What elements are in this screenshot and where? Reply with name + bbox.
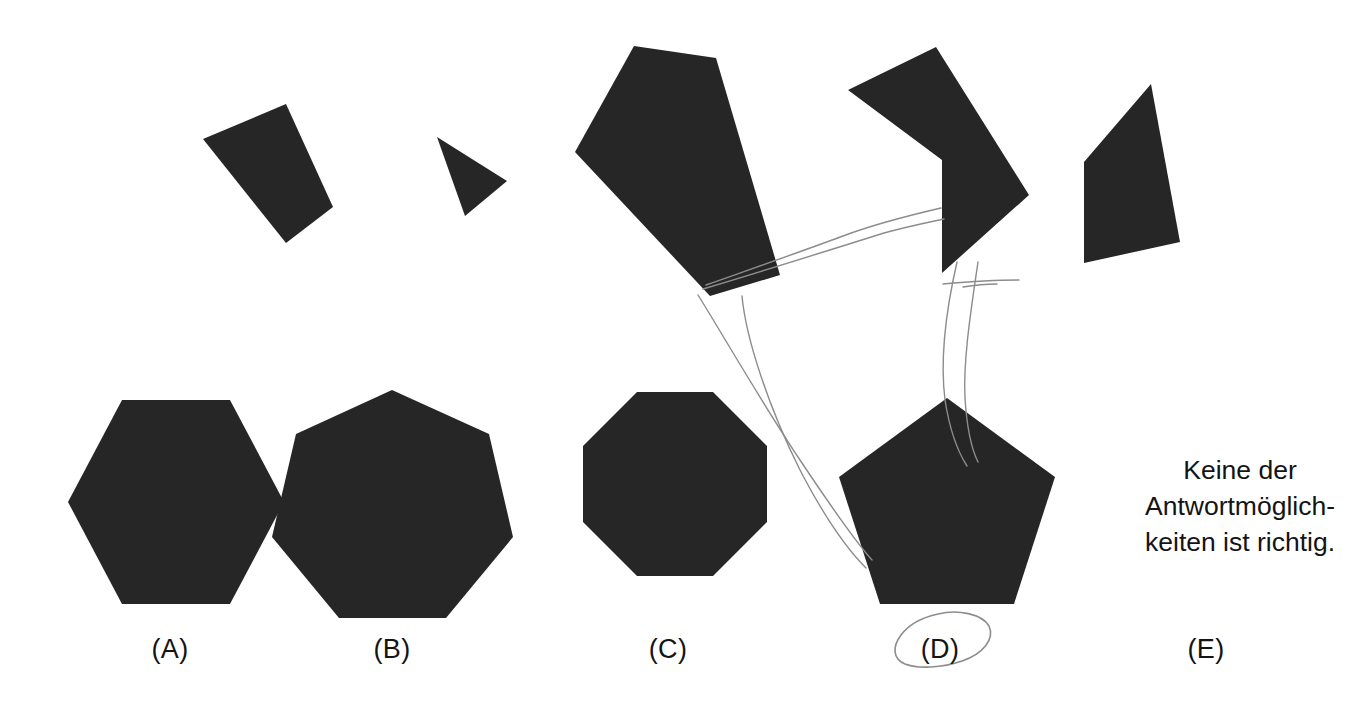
option-c-octagon-shape[interactable]	[583, 392, 767, 576]
option-label-e[interactable]: (E)	[1188, 634, 1225, 665]
option-label-b[interactable]: (B)	[374, 634, 411, 665]
exam-figure-page: (A) (B) (C) (D) (E) Keine der Antwortmög…	[0, 0, 1367, 703]
option-label-c[interactable]: (C)	[649, 634, 687, 665]
geometry-figure	[0, 0, 1367, 703]
option-label-a[interactable]: (A)	[152, 634, 189, 665]
option-e-answer-text: Keine der Antwortmöglich- keiten ist ric…	[1120, 452, 1360, 560]
option-label-d[interactable]: (D)	[921, 634, 959, 665]
